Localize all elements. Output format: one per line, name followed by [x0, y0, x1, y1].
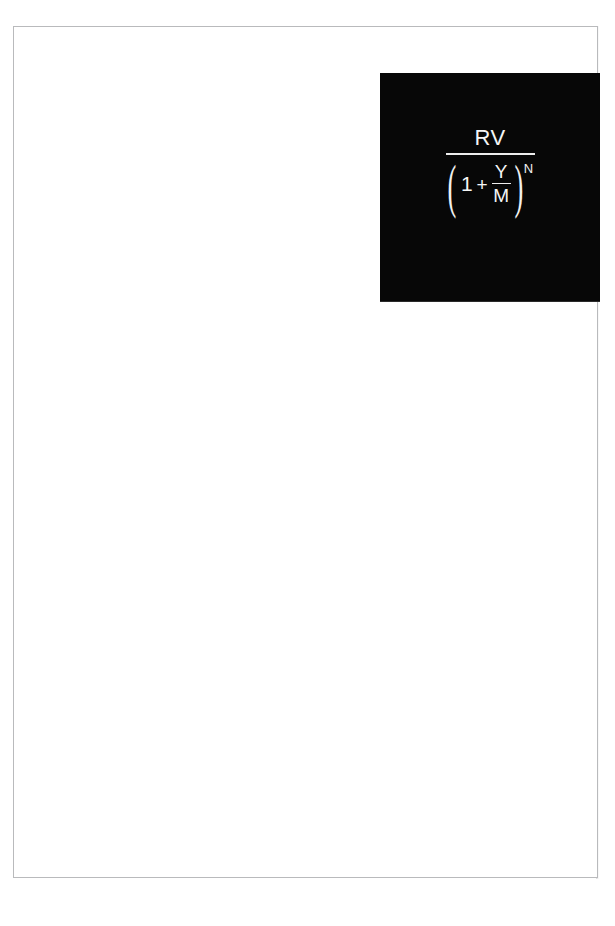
formula-expression: RV ( 1 + Y M ) — [380, 127, 600, 208]
inner-fraction-denominator: M — [493, 184, 509, 205]
open-paren: ( — [448, 156, 457, 215]
exponent-n: N — [524, 162, 533, 175]
document-page: RV ( 1 + Y M ) — [13, 26, 598, 878]
term-one: 1 — [460, 173, 474, 194]
inner-fraction-numerator: Y — [495, 162, 508, 183]
fraction-numerator: RV — [464, 127, 515, 153]
main-fraction: RV ( 1 + Y M ) — [446, 127, 535, 208]
fraction-denominator: ( 1 + Y M ) N — [447, 155, 533, 208]
paren-contents: 1 + Y M — [460, 160, 511, 208]
inner-fraction: Y M — [492, 162, 511, 206]
formula-panel: RV ( 1 + Y M ) — [380, 73, 600, 301]
plus-operator: + — [474, 175, 492, 194]
close-paren: ) — [514, 156, 523, 215]
